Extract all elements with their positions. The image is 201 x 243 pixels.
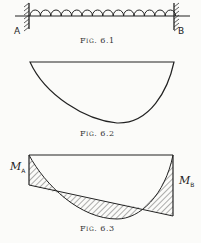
fig-6-3-combined-diagram: [29, 155, 173, 219]
support-label-b: B: [178, 26, 184, 36]
caption-fig-6-3: Fig. 6.3: [80, 224, 115, 233]
caption-fig-6-1: Fig. 6.1: [80, 36, 115, 45]
fig-6-1-beam: [15, 3, 190, 31]
hatched-area-middle: [58, 193, 143, 219]
moment-label-mb: MB: [179, 174, 194, 188]
distributed-load-arcs: [30, 10, 176, 16]
fig-6-2-free-moment-diagram: [30, 62, 174, 123]
hatched-area-right: [143, 155, 173, 216]
caption-fig-6-2: Fig. 6.2: [80, 129, 115, 138]
hatched-area-left: [29, 155, 58, 193]
moment-label-ma: MA: [10, 160, 25, 174]
support-label-a: A: [14, 26, 20, 36]
